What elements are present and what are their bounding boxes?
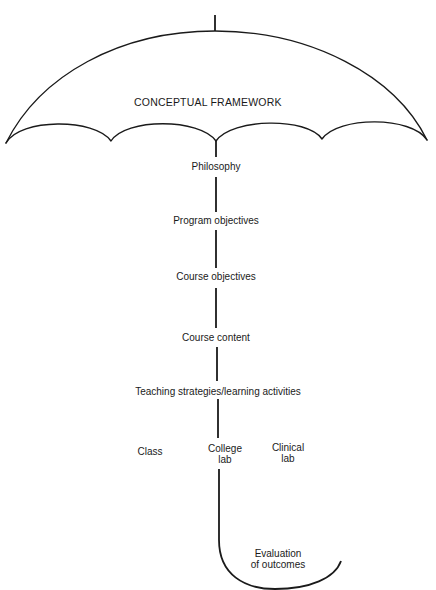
umbrella-canopy <box>6 31 427 143</box>
node-evaluation-of-outcomes: Evaluation of outcomes <box>238 549 318 570</box>
evaluation-line2: of outcomes <box>238 560 318 571</box>
umbrella-handle <box>219 469 341 589</box>
node-program-objectives: Program objectives <box>156 215 276 226</box>
node-philosophy: Philosophy <box>166 161 266 172</box>
umbrella-drawing <box>0 0 436 590</box>
node-course-objectives: Course objectives <box>156 271 276 282</box>
umbrella-scallops <box>6 122 427 143</box>
node-teaching-strategies: Teaching strategies/learning activities <box>116 386 320 397</box>
node-course-content: Course content <box>156 332 276 343</box>
branch-college-lab-line2: lab <box>200 455 250 466</box>
evaluation-line1: Evaluation <box>238 549 318 560</box>
umbrella-diagram: CONCEPTUAL FRAMEWORK Philosophy Program … <box>0 0 436 590</box>
branch-class: Class <box>135 446 165 457</box>
branch-clinical-lab: Clinical lab <box>263 443 313 464</box>
branch-clinical-lab-line1: Clinical <box>263 443 313 454</box>
branch-college-lab: College lab <box>200 444 250 465</box>
branch-college-lab-line1: College <box>200 444 250 455</box>
branch-clinical-lab-line2: lab <box>263 454 313 465</box>
title-conceptual-framework: CONCEPTUAL FRAMEWORK <box>134 97 278 108</box>
